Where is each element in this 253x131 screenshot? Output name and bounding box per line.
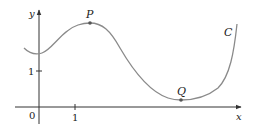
curve-c — [24, 23, 237, 100]
plot-area: y x P Q C 0 1 1 — [0, 0, 253, 131]
x-tick-label-1: 1 — [72, 112, 78, 123]
y-tick-label-1: 1 — [28, 66, 34, 77]
x-axis-label: x — [236, 111, 242, 122]
point-q-label: Q — [177, 85, 186, 98]
point-p-label: P — [85, 8, 94, 21]
curve-c-label: C — [224, 26, 233, 39]
curve-figure: y x P Q C 0 1 1 — [0, 0, 253, 131]
y-axis-label: y — [28, 8, 35, 19]
origin-label: 0 — [29, 110, 35, 121]
point-q-marker — [179, 98, 183, 102]
point-p-marker — [88, 21, 92, 25]
